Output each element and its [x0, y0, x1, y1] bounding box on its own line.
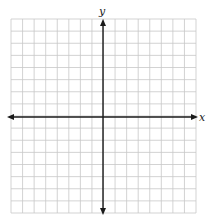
x-axis-left-arrow-icon	[7, 114, 14, 120]
y-axis: y	[98, 5, 106, 215]
x-axis-right-arrow-icon	[191, 114, 198, 120]
y-axis-up-arrow-icon	[100, 19, 106, 26]
y-axis-down-arrow-icon	[100, 208, 106, 215]
coordinate-plane: x y	[0, 0, 209, 223]
x-axis: x	[7, 111, 206, 124]
y-axis-label: y	[98, 5, 106, 18]
x-axis-label: x	[199, 111, 206, 124]
